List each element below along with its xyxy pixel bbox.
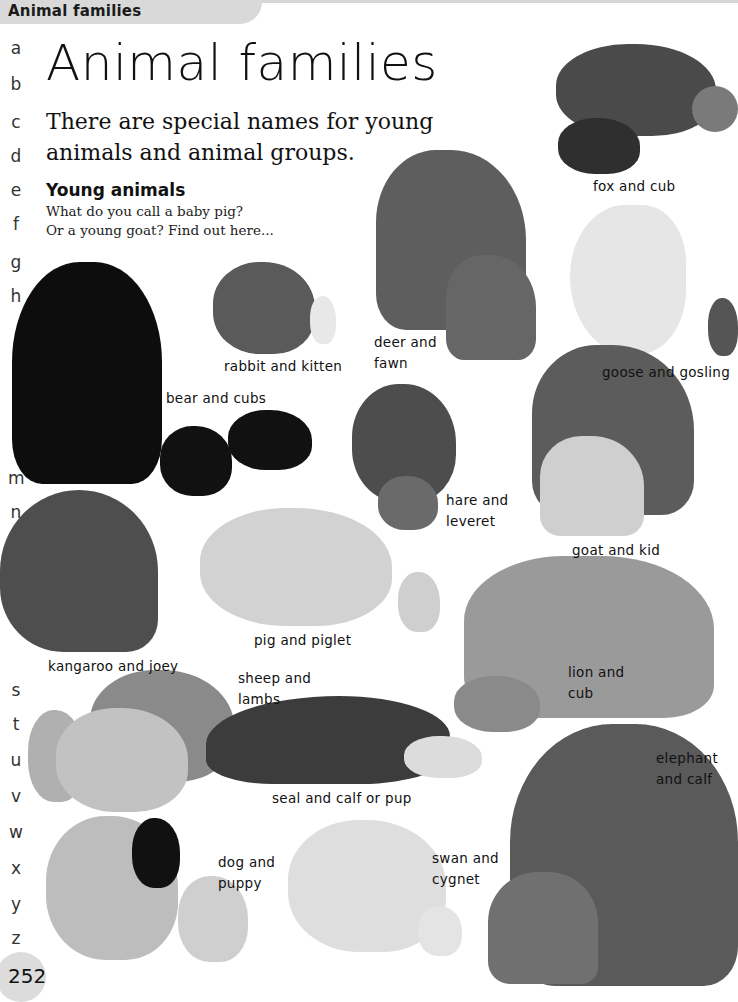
label-line: seal and calf or pup [272, 788, 412, 809]
page-number: 252 [8, 964, 46, 988]
alpha-letter: f [8, 214, 24, 234]
section-text: What do you call a baby pig? Or a young … [46, 202, 274, 240]
animal-label-rabbit: rabbit and kitten [224, 356, 342, 377]
alpha-letter: v [8, 786, 24, 806]
animal-label-kangaroo: kangaroo and joey [48, 656, 178, 677]
label-line: swan and [432, 848, 499, 869]
label-line: puppy [218, 873, 275, 894]
animal-label-hare: hare and leveret [446, 490, 508, 532]
animal-label-dog: dog and puppy [218, 852, 275, 894]
label-line: cygnet [432, 869, 499, 890]
section-tab-label: Animal families [8, 2, 141, 20]
alpha-letter: u [8, 750, 24, 770]
alpha-letter: e [8, 180, 24, 200]
alpha-letter: a [8, 38, 24, 58]
alpha-letter: x [8, 858, 24, 878]
alpha-letter: s [8, 680, 24, 700]
alpha-letter: c [8, 112, 24, 132]
label-line: sheep and [238, 668, 311, 689]
page-number-badge: 252 [0, 952, 46, 1002]
alpha-letter: w [8, 822, 24, 842]
label-line: and calf [656, 769, 718, 790]
section-heading: Young animals [46, 180, 185, 200]
animal-label-bear: bear and cubs [166, 388, 266, 409]
intro-text: There are special names for young animal… [46, 106, 466, 168]
label-line: elephant [656, 748, 718, 769]
alpha-letter: t [8, 714, 24, 734]
animal-label-swan: swan and cygnet [432, 848, 499, 890]
alpha-letter: g [8, 252, 24, 272]
label-line: cub [568, 683, 624, 704]
label-line: fawn [374, 353, 437, 374]
section-text-line: Or a young goat? Find out here... [46, 221, 274, 240]
alpha-letter: z [8, 928, 24, 948]
section-text-line: What do you call a baby pig? [46, 202, 274, 221]
label-line: bear and cubs [166, 388, 266, 409]
animal-label-lion: lion and cub [568, 662, 624, 704]
animal-label-deer: deer and fawn [374, 332, 437, 374]
label-line: goose and gosling [602, 362, 730, 383]
label-line: dog and [218, 852, 275, 873]
alpha-letter: y [8, 894, 24, 914]
label-line: deer and [374, 332, 437, 353]
label-line: lion and [568, 662, 624, 683]
label-line: lambs [238, 689, 311, 710]
page-title: Animal families [46, 34, 438, 92]
section-tab: Animal families [0, 0, 262, 24]
label-line: rabbit and kitten [224, 356, 342, 377]
alpha-letter: b [8, 74, 24, 94]
animal-label-goat: goat and kid [572, 540, 660, 561]
label-line: fox and cub [593, 176, 675, 197]
label-line: pig and piglet [254, 630, 351, 651]
label-line: kangaroo and joey [48, 656, 178, 677]
animal-label-goose: goose and gosling [602, 362, 730, 383]
animal-label-seal: seal and calf or pup [272, 788, 412, 809]
alpha-letter: d [8, 146, 24, 166]
alpha-letter: h [8, 286, 24, 306]
label-line: leveret [446, 511, 508, 532]
animal-label-sheep: sheep and lambs [238, 668, 311, 710]
label-line: goat and kid [572, 540, 660, 561]
animal-label-pig: pig and piglet [254, 630, 351, 651]
label-line: hare and [446, 490, 508, 511]
animal-label-elephant: elephant and calf [656, 748, 718, 790]
animal-label-fox: fox and cub [593, 176, 675, 197]
